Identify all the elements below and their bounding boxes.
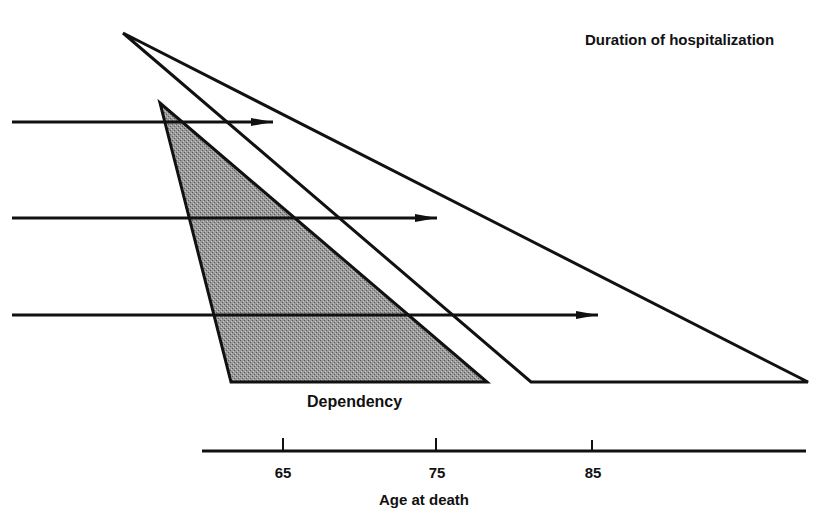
- dependency-triangle: [160, 103, 487, 382]
- x-tick-label-65: 65: [275, 464, 292, 481]
- diagram-canvas: [0, 0, 826, 521]
- x-tick-label-75: 75: [429, 464, 446, 481]
- duration-label: Duration of hospitalization: [585, 31, 774, 48]
- x-tick-label-85: 85: [585, 464, 602, 481]
- x-axis-title: Age at death: [379, 491, 469, 508]
- dependency-label: Dependency: [307, 393, 402, 411]
